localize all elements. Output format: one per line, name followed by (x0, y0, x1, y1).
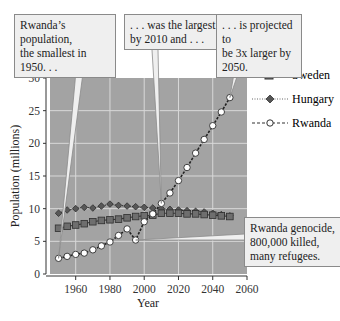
plot-area (50, 78, 247, 274)
x-tick-label: 2040 (201, 283, 224, 295)
circle-marker-icon (72, 251, 78, 257)
callout-text: . . . was the largest (130, 18, 218, 32)
x-tick-label: 2020 (167, 283, 190, 295)
circle-marker-icon (175, 177, 181, 183)
callout-projected-2050: . . . is projected to be 3x larger by 20… (216, 14, 302, 78)
circle-marker-icon (64, 253, 70, 259)
x-tick-label: 1980 (98, 283, 121, 295)
callout-text: the smallest in 1950. . . (20, 46, 110, 74)
circle-marker-icon (141, 219, 147, 225)
circle-marker-icon (167, 190, 173, 196)
callout-text: 800,000 killed, (250, 235, 335, 249)
callout-text: many refugees. (250, 249, 335, 263)
callout-text: by 2010 and . . . (130, 32, 218, 46)
circle-marker-icon (184, 164, 190, 170)
callout-text: Rwanda genocide, (250, 221, 335, 235)
square-marker-icon (90, 218, 97, 225)
circle-marker-icon (201, 136, 207, 142)
square-marker-icon (124, 215, 131, 222)
x-axis-title: Year (137, 296, 159, 310)
square-marker-icon (209, 212, 216, 219)
callout-text: Rwanda’s population, (20, 18, 110, 46)
circle-marker-icon (107, 239, 113, 245)
legend-item-hungary: Hungary (252, 92, 334, 106)
circle-marker-icon (115, 232, 121, 238)
callout-smallest-1950: Rwanda’s population, the smallest in 195… (14, 14, 116, 78)
square-marker-icon (98, 217, 105, 224)
square-marker-icon (115, 216, 122, 223)
legend-item-rwanda: Rwanda (252, 116, 332, 130)
square-marker-icon (72, 222, 79, 229)
x-tick-label: 2000 (133, 283, 156, 295)
square-marker-icon (158, 210, 165, 217)
square-marker-icon (218, 213, 225, 220)
circle-marker-icon (90, 247, 96, 253)
square-marker-icon (64, 223, 71, 230)
circle-marker-icon (192, 150, 198, 156)
x-tick-label: 2060 (236, 283, 259, 295)
diamond-marker-icon (266, 95, 274, 103)
y-tick-label: 15 (29, 170, 41, 182)
circle-marker-icon (210, 122, 216, 128)
callout-text: 2050. (222, 60, 296, 74)
square-marker-icon (184, 211, 191, 218)
square-marker-icon (167, 210, 174, 217)
y-axis-title: Population (millions) (8, 125, 22, 227)
square-marker-icon (81, 220, 88, 227)
callout-text: . . . is projected to (222, 18, 296, 46)
y-tick-label: 20 (29, 137, 41, 149)
legend-label-hungary: Hungary (292, 92, 334, 106)
y-tick-label: 25 (29, 105, 41, 117)
callout-text: be 3x larger by (222, 46, 296, 60)
circle-marker-icon (218, 109, 224, 115)
square-marker-icon (201, 211, 208, 218)
y-tick-label: 5 (34, 235, 40, 247)
square-marker-icon (227, 213, 234, 220)
y-tick-label: 10 (29, 203, 41, 215)
x-tick-label: 1960 (64, 283, 87, 295)
circle-marker-icon (150, 211, 156, 217)
circle-marker-icon (81, 250, 87, 256)
square-marker-icon (132, 213, 139, 220)
y-tick-label: 0 (34, 268, 40, 280)
circle-marker-icon (124, 226, 130, 232)
square-marker-icon (192, 211, 199, 218)
square-marker-icon (175, 210, 182, 217)
circle-marker-icon (267, 120, 273, 126)
square-marker-icon (107, 216, 114, 223)
callout-largest-2010: . . . was the largest by 2010 and . . . (124, 14, 224, 50)
callout-genocide: Rwanda genocide, 800,000 killed, many re… (244, 217, 340, 267)
circle-marker-icon (98, 243, 104, 249)
legend-label-rwanda: Rwanda (292, 116, 332, 130)
